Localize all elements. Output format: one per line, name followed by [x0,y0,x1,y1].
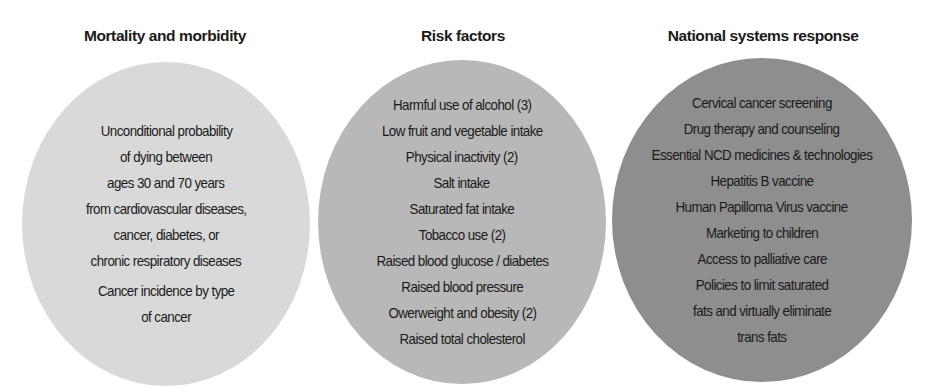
list-item: Saturated fat intake [410,196,515,222]
list-item: fats and virtually eliminate [693,298,831,324]
list-item: from cardiovascular diseases, [86,196,246,222]
list-item: Cancer incidence by type [98,278,235,304]
list-item: chronic respiratory diseases [91,248,242,274]
list-item: Hepatitis B vaccine [711,168,814,194]
list-item: Policies to limit saturated [696,272,829,298]
list-item: trans fats [737,324,786,350]
circle-mortality-morbidity: Unconditional probability of dying betwe… [22,62,310,386]
list-item: cancer, diabetes, or [113,222,218,248]
list-item: Essential NCD medicines & technologies [652,142,873,168]
list-item: Unconditional probability [100,118,232,144]
list-item: Access to palliative care [697,246,826,272]
list-item: Marketing to children [706,220,818,246]
list-item: Raised total cholesterol [399,326,524,352]
list-item: Raised blood pressure [401,274,523,300]
list-item: Harmful use of alcohol (3) [393,92,531,118]
list-item: of cancer [141,304,191,330]
heading-mortality-morbidity: Mortality and morbidity [0,27,330,45]
column-national-systems-response: National systems response Cervical cance… [612,0,914,387]
circle-risk-factors: Harmful use of alcohol (3) Low fruit and… [318,60,606,384]
list-item: Owerweight and obesity (2) [388,300,536,326]
list-item: Salt intake [434,170,490,196]
heading-risk-factors: Risk factors [318,27,608,45]
heading-national-systems-response: National systems response [612,27,914,45]
list-item: Raised blood glucose / diabetes [376,248,548,274]
list-item: Drug therapy and counseling [684,116,840,142]
list-item: ages 30 and 70 years [107,170,224,196]
column-mortality-morbidity: Mortality and morbidity Unconditional pr… [0,0,330,387]
list-item: Low fruit and vegetable intake [382,118,543,144]
list-item: Physical inactivity (2) [406,144,518,170]
list-item: Human Papilloma Virus vaccine [676,194,848,220]
circle-national-systems-response: Cervical cancer screening Drug therapy a… [612,58,912,382]
column-risk-factors: Risk factors Harmful use of alcohol (3) … [318,0,608,387]
list-item: Cervical cancer screening [692,90,832,116]
list-item: of dying between [120,144,212,170]
list-item: Tobacco use (2) [419,222,506,248]
